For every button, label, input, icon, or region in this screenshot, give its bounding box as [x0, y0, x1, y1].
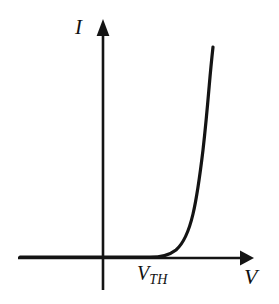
y-axis-label: I — [75, 17, 82, 38]
threshold-voltage-label: VTH — [137, 263, 168, 283]
threshold-voltage-subscript: TH — [149, 272, 167, 287]
diode-iv-characteristic-figure: I V VTH — [0, 0, 279, 304]
x-axis-label: V — [244, 266, 257, 288]
threshold-voltage-symbol: V — [137, 262, 149, 284]
y-axis-arrowhead-icon — [97, 19, 110, 36]
plot-canvas — [0, 0, 279, 304]
diode-curve — [20, 47, 213, 257]
